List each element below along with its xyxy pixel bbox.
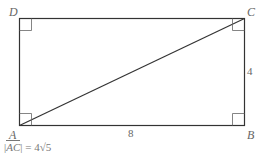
right-angle-marker-a <box>20 114 32 126</box>
diagonal-ac <box>20 19 245 126</box>
side-label-ab: 8 <box>128 128 134 139</box>
vertex-label-c: C <box>247 6 255 18</box>
diagonal-length-formula: |AC| = 4√5 <box>4 141 51 153</box>
right-angle-marker-c <box>233 19 245 31</box>
right-angle-marker-d <box>20 19 32 31</box>
segment-ac: AC <box>6 140 20 153</box>
vertex-label-b: B <box>247 129 254 141</box>
side-label-bc: 4 <box>247 66 253 77</box>
right-angle-marker-b <box>233 114 245 126</box>
vertex-label-d: D <box>9 6 18 18</box>
formula-value: = 4√5 <box>22 141 51 153</box>
